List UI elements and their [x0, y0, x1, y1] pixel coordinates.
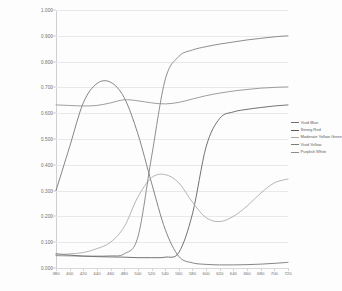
y-axis-tick-label: 0.400 [9, 162, 53, 167]
legend-color-swatch [291, 144, 299, 145]
legend-color-swatch [291, 152, 299, 153]
x-axis-tick-label: 580 [189, 271, 196, 276]
x-axis-tick [220, 268, 221, 271]
x-axis-tick-label: 400 [66, 271, 73, 276]
y-axis-tick-label: 0.200 [9, 214, 53, 219]
y-axis-tick-label: 0.500 [9, 137, 53, 142]
y-axis-tick-label: 0.100 [9, 240, 53, 245]
x-axis-tick [138, 268, 139, 271]
y-axis-tick-label: 0.000 [9, 266, 53, 271]
legend-item: Purplish White [291, 149, 341, 156]
series-line [56, 105, 288, 258]
x-axis-tick-label: 380 [52, 271, 59, 276]
legend-item: Strong Red [291, 126, 341, 133]
legend-item-label: Vivid Blue [301, 121, 319, 125]
x-axis-tick [192, 268, 193, 271]
grid-line [56, 268, 288, 269]
legend-color-swatch [291, 122, 299, 123]
x-axis-tick [124, 268, 125, 271]
x-axis-tick-label: 620 [216, 271, 223, 276]
data-curves [56, 10, 288, 268]
x-axis-tick [206, 268, 207, 271]
x-axis-tick-label: 720 [284, 271, 291, 276]
x-axis-tick-label: 560 [175, 271, 182, 276]
x-axis-tick [70, 268, 71, 271]
legend-color-swatch [291, 137, 299, 138]
x-axis-tick [56, 268, 57, 271]
x-axis-tick [179, 268, 180, 271]
y-axis-tick-label: 0.800 [9, 59, 53, 64]
x-axis-tick [288, 268, 289, 271]
y-axis-tick-label: 0.300 [9, 188, 53, 193]
y-axis-tick-label: 0.900 [9, 33, 53, 38]
legend-item: Vivid Yellow [291, 141, 341, 148]
spectral-reflectance-chart: 0.0000.1000.2000.3000.4000.5000.6000.700… [0, 0, 342, 291]
y-axis-tick-label: 0.700 [9, 85, 53, 90]
x-axis-tick [152, 268, 153, 271]
series-line [56, 174, 288, 254]
x-axis-tick-label: 500 [134, 271, 141, 276]
x-axis-tick [233, 268, 234, 271]
x-axis-tick [83, 268, 84, 271]
legend-item: Moderate Yellow Green [291, 134, 341, 141]
legend-color-swatch [291, 130, 299, 131]
chart-legend: Vivid BlueStrong RedModerate Yellow Gree… [291, 119, 341, 156]
y-axis-tick-label: 0.600 [9, 111, 53, 116]
x-axis-tick [111, 268, 112, 271]
x-axis-tick-label: 660 [243, 271, 250, 276]
x-axis-tick [261, 268, 262, 271]
x-axis-tick-label: 600 [203, 271, 210, 276]
x-axis-tick [274, 268, 275, 271]
x-axis-tick-label: 460 [107, 271, 114, 276]
x-axis-tick-label: 700 [271, 271, 278, 276]
legend-item-label: Strong Red [301, 128, 321, 132]
legend-item: Vivid Blue [291, 119, 341, 126]
x-axis-tick-label: 680 [257, 271, 264, 276]
x-axis-tick [97, 268, 98, 271]
legend-item-label: Moderate Yellow Green [301, 135, 342, 139]
x-axis-tick-label: 480 [121, 271, 128, 276]
y-axis-tick-label: 1.000 [9, 8, 53, 13]
x-axis-tick-label: 640 [230, 271, 237, 276]
series-line [56, 36, 288, 256]
x-axis-tick [165, 268, 166, 271]
x-axis-tick-label: 420 [80, 271, 87, 276]
x-axis-tick-label: 540 [162, 271, 169, 276]
x-axis-tick-label: 440 [93, 271, 100, 276]
x-axis-tick-label: 520 [148, 271, 155, 276]
legend-item-label: Vivid Yellow [301, 143, 322, 147]
x-axis-tick [247, 268, 248, 271]
legend-item-label: Purplish White [301, 150, 327, 154]
